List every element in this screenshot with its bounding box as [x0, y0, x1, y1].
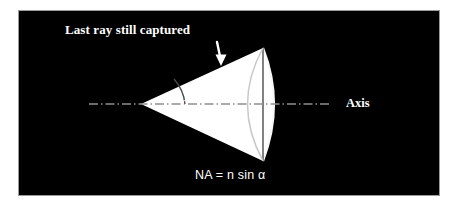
diagram-panel: Last ray still captured α Axis NA = n si… [18, 10, 440, 196]
angle-alpha-label: α [182, 95, 189, 108]
annotation-last-ray-captured: Last ray still captured [65, 23, 190, 36]
axis-label: Axis [346, 97, 370, 110]
numerical-aperture-formula: NA = n sin α [195, 169, 265, 182]
figure-root: Last ray still captured α Axis NA = n si… [0, 0, 460, 211]
